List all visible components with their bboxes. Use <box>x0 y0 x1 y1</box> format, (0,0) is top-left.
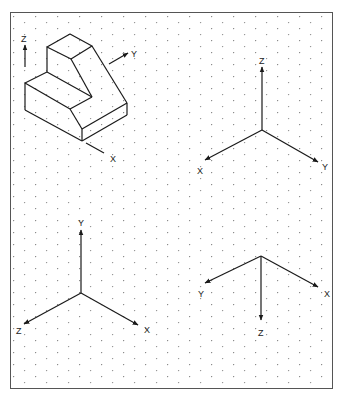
br-x-label: X <box>324 289 330 299</box>
diagram-svg: Z Y X Z X Y Y Z X Y X Z <box>0 0 339 398</box>
tr-x-label: X <box>197 166 203 176</box>
bl-y-label: Y <box>78 218 84 228</box>
object-z-label: Z <box>21 34 27 44</box>
br-y-label: Y <box>198 289 204 299</box>
br-z-label: Z <box>258 328 264 338</box>
tr-z-label: Z <box>259 56 265 66</box>
bl-x-label: X <box>144 325 150 335</box>
object-y-label: Y <box>131 49 137 59</box>
isometric-diagram: Z Y X Z X Y Y Z X Y X Z <box>0 0 339 398</box>
dot-grid <box>11 13 332 388</box>
tr-y-label: Y <box>322 162 328 172</box>
object-x-label: X <box>110 154 116 164</box>
bl-z-label: Z <box>16 326 22 336</box>
